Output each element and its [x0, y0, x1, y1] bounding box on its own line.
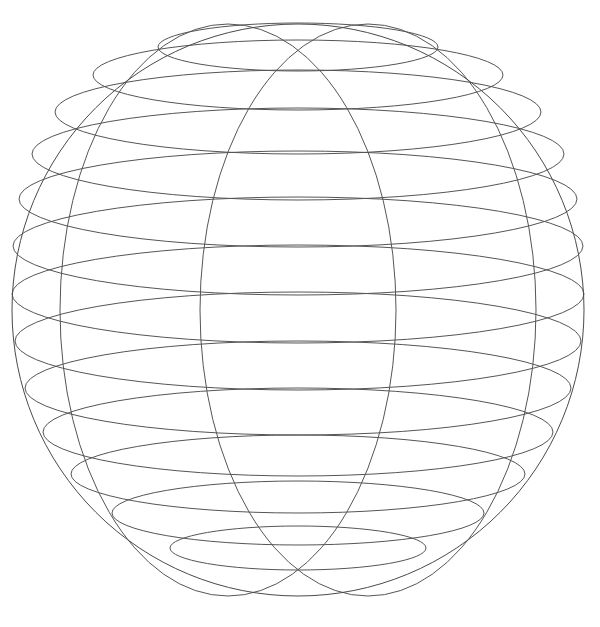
background	[0, 0, 600, 627]
drawing-canvas	[0, 0, 600, 627]
wireframe-sphere-figure	[0, 0, 600, 627]
